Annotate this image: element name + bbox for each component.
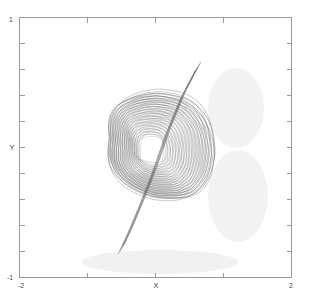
plot-frame — [20, 18, 292, 278]
axis-ticks — [20, 18, 292, 278]
figure-canvas: 1 -1 Y -2 2 X — [0, 0, 312, 301]
trajectory-curves — [108, 62, 215, 253]
x-axis-title: X — [153, 281, 158, 290]
x-axis-min-label: -2 — [18, 282, 24, 289]
x-axis-max-label: 2 — [289, 282, 293, 289]
y-axis-title: Y — [9, 143, 14, 152]
y-axis-max-label: 1 — [9, 16, 13, 23]
y-axis-min-label: -1 — [7, 274, 13, 281]
phase-space-plot: 1 -1 Y -2 2 X — [0, 0, 312, 301]
